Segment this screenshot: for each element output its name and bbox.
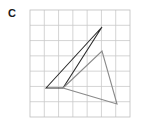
shape-layer bbox=[46, 27, 117, 104]
grid-lines bbox=[30, 10, 130, 117]
grid-border bbox=[30, 10, 130, 117]
original-triangle bbox=[46, 27, 102, 88]
grid-outer-border bbox=[30, 10, 130, 117]
transformed-triangle bbox=[63, 51, 117, 104]
geometry-grid-svg bbox=[0, 0, 142, 127]
figure-panel: C bbox=[0, 0, 142, 127]
